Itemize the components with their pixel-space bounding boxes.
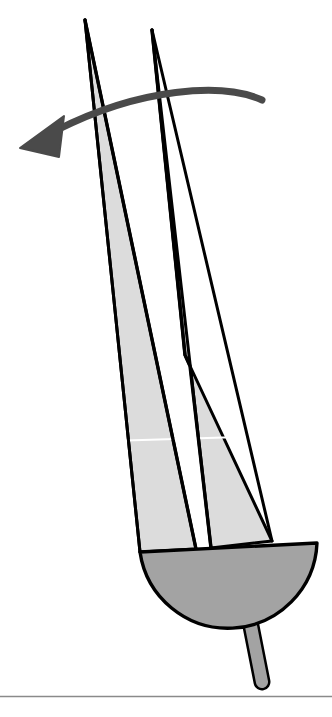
rotor-diagram-svg: Two-bladed rotor with rotation direction… [0, 0, 332, 717]
figure-root: Two-bladed rotor with rotation direction… [0, 0, 332, 717]
